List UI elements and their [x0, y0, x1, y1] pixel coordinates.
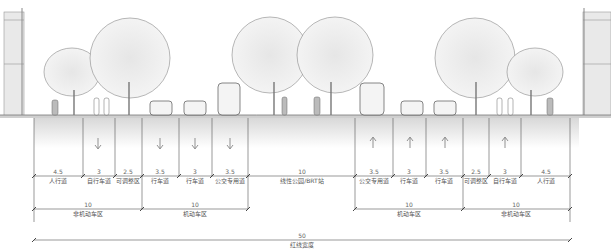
segment-label: 行车道 — [400, 177, 418, 184]
total-label: 红线宽度 — [290, 241, 314, 248]
dimension-lines — [34, 176, 570, 240]
road-surface — [0, 115, 611, 118]
tree-group — [44, 17, 563, 98]
pedestrians — [52, 97, 553, 115]
group-width: 10 — [191, 201, 199, 208]
segment-width: 3.5 — [155, 168, 165, 175]
segment-label: 行车道 — [435, 177, 453, 184]
segment-width: 4.5 — [53, 168, 63, 175]
segment-width: 4.5 — [541, 168, 551, 175]
segment-width: 10 — [298, 168, 306, 175]
segment-label: 可调整区 — [464, 177, 488, 184]
group-label: 非机动车区 — [73, 210, 103, 217]
group-width: 10 — [512, 201, 520, 208]
segment-width: 3.5 — [225, 168, 235, 175]
group-width: 10 — [405, 201, 413, 208]
segment-width: 3.5 — [439, 168, 449, 175]
segment-label: 人行道 — [49, 177, 67, 184]
group-label: 机动车区 — [183, 210, 207, 217]
vehicles — [150, 83, 456, 115]
group-label: 机动车区 — [397, 210, 421, 217]
segment-width: 2.5 — [471, 168, 481, 175]
segment-label: 行车道 — [186, 177, 204, 184]
segment-label: 公交专用道 — [215, 177, 245, 184]
segment-label: 自行车道 — [87, 177, 111, 184]
segment-width: 2.5 — [123, 168, 133, 175]
segment-label: 可调整区 — [116, 177, 140, 184]
group-label: 非机动车区 — [501, 210, 531, 217]
segment-width: 3 — [503, 168, 507, 175]
segment-label: 自行车道 — [493, 177, 517, 184]
building-left — [4, 8, 24, 116]
segment-label: 线性公园/BRT站 — [280, 177, 324, 184]
segment-label: 人行道 — [537, 177, 555, 184]
group-width: 10 — [84, 201, 92, 208]
building-right — [583, 8, 611, 116]
segment-width: 3.5 — [369, 168, 379, 175]
segment-width: 3 — [193, 168, 197, 175]
segment-width: 3 — [407, 168, 411, 175]
total-width: 50 — [298, 232, 306, 239]
segment-label: 行车道 — [151, 177, 169, 184]
segment-label: 公交专用道 — [359, 177, 389, 184]
segment-width: 3 — [97, 168, 101, 175]
